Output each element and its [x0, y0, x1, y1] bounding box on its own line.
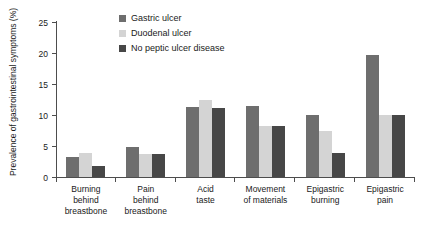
x-tick-label-line: burning	[295, 195, 355, 206]
legend-item[interactable]: Gastric ulcer	[119, 12, 225, 24]
y-tick-label: 10	[39, 111, 48, 121]
x-tick-label-line: Movement	[235, 184, 295, 195]
bar	[139, 154, 152, 177]
bar	[272, 126, 285, 177]
x-tick-mark	[234, 177, 235, 182]
bar	[199, 100, 212, 177]
plot-area: 0510152025	[56, 22, 415, 177]
y-tick: 0	[43, 168, 56, 186]
x-axis-line	[56, 177, 415, 178]
x-tick-label-line: Pain	[116, 184, 176, 195]
x-tick-label: Movementof materials	[235, 184, 295, 230]
bar	[186, 107, 199, 177]
y-tick: 5	[43, 137, 56, 155]
x-tick-label-line: Epigastric	[295, 184, 355, 195]
bar	[392, 115, 405, 177]
bar-group	[355, 22, 415, 177]
bar-set	[56, 22, 116, 177]
legend-item[interactable]: No peptic ulcer disease	[119, 42, 225, 54]
x-tick-label-line: behind	[56, 195, 116, 206]
x-tick-label-line: pain	[355, 195, 415, 206]
bar-set	[355, 22, 415, 177]
x-tick-mark	[56, 177, 57, 182]
x-tick-mark	[294, 177, 295, 182]
bar	[92, 166, 105, 177]
x-tick-label: Epigastricburning	[295, 184, 355, 230]
y-tick: 15	[39, 75, 56, 93]
x-tick-label: Epigastricpain	[355, 184, 415, 230]
x-tick-label-line: Acid	[176, 184, 236, 195]
bar-set	[295, 22, 355, 177]
bar	[246, 106, 259, 177]
y-tick-label: 15	[39, 80, 48, 90]
x-tick-label: Burningbehindbreastbone	[56, 184, 116, 230]
x-tick-label-line: Epigastric	[355, 184, 415, 195]
x-tick-label-line: behind	[116, 195, 176, 206]
bar-chart: Prevalence of gastrointestinal symptoms …	[0, 0, 422, 233]
bar	[259, 126, 272, 177]
x-tick-label-line: of materials	[235, 195, 295, 206]
y-axis-label: Prevalence of gastrointestinal symptoms …	[8, 2, 18, 182]
x-tick-label: Acidtaste	[176, 184, 236, 230]
bar	[79, 153, 92, 177]
legend-label: No peptic ulcer disease	[131, 43, 225, 53]
bar-groups	[56, 22, 415, 177]
bar	[366, 55, 379, 177]
y-tick: 20	[39, 44, 56, 62]
x-tick-label-line: breastbone	[116, 206, 176, 217]
x-tick-mark	[175, 177, 176, 182]
legend-swatch-icon	[119, 45, 126, 52]
y-tick-label: 0	[43, 173, 48, 183]
bar	[319, 131, 332, 177]
legend-swatch-icon	[119, 30, 126, 37]
bar	[332, 153, 345, 177]
x-tick-label-line: Burning	[56, 184, 116, 195]
y-tick-label: 20	[39, 49, 48, 59]
legend-swatch-icon	[119, 15, 126, 22]
legend-label: Duodenal ulcer	[131, 28, 192, 38]
x-tick-mark	[354, 177, 355, 182]
y-axis-label-container: Prevalence of gastrointestinal symptoms …	[0, 0, 30, 190]
bar	[212, 108, 225, 177]
bar	[152, 154, 165, 177]
bar	[306, 115, 319, 177]
bar	[66, 157, 79, 177]
bar-group	[295, 22, 355, 177]
bar	[126, 147, 139, 177]
x-tick-label-line: taste	[176, 195, 236, 206]
y-tick: 25	[39, 13, 56, 31]
legend: Gastric ulcerDuodenal ulcerNo peptic ulc…	[119, 12, 225, 54]
bar	[379, 115, 392, 177]
y-tick-label: 25	[39, 18, 48, 28]
y-tick-label: 5	[43, 142, 48, 152]
bar-group	[56, 22, 116, 177]
bar-set	[235, 22, 295, 177]
x-tick-mark	[414, 177, 415, 182]
bar-group	[235, 22, 295, 177]
x-tick-label: Painbehindbreastbone	[116, 184, 176, 230]
x-tick-mark	[115, 177, 116, 182]
y-tick: 10	[39, 106, 56, 124]
legend-label: Gastric ulcer	[131, 13, 182, 23]
x-axis-tick-labels: BurningbehindbreastbonePainbehindbreastb…	[56, 184, 415, 230]
x-tick-label-line: breastbone	[56, 206, 116, 217]
legend-item[interactable]: Duodenal ulcer	[119, 27, 225, 39]
